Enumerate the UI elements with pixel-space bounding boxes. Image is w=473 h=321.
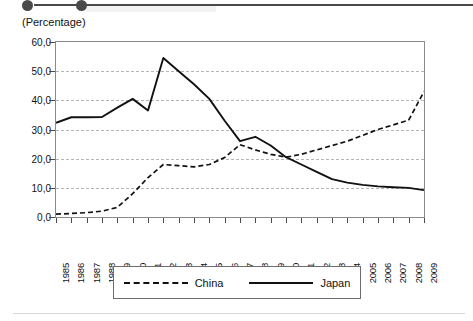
x-tick-18 — [332, 218, 333, 223]
x-tick-1 — [71, 218, 72, 223]
x-tick-21 — [378, 218, 379, 223]
x-tick-10 — [209, 218, 210, 223]
bullet-dot-1-icon — [22, 0, 33, 11]
legend-item-japan: Japan — [249, 277, 350, 289]
x-tick-20 — [363, 218, 364, 223]
x-tick-23 — [409, 218, 410, 223]
x-tick-14 — [271, 218, 272, 223]
top-decoration-bar — [0, 0, 473, 14]
x-tick-22 — [393, 218, 394, 223]
legend-swatch-solid-icon — [249, 282, 313, 284]
x-tick-7 — [163, 218, 164, 223]
y-axis-unit-label: (Percentage) — [22, 16, 86, 28]
series-line-japan — [56, 58, 424, 190]
x-axis-ticks — [55, 218, 425, 223]
plot-area — [55, 41, 425, 218]
x-tick-8 — [179, 218, 180, 223]
x-tick-label-2008: 2008 — [413, 263, 424, 283]
x-axis-tick-labels: 1985198619871988198919901991199219931994… — [55, 225, 425, 265]
x-tick-label-2005: 2005 — [367, 263, 378, 283]
x-tick-3 — [102, 218, 103, 223]
top-rule — [34, 4, 473, 6]
series-lines — [56, 42, 424, 217]
legend-swatch-dashed-icon — [124, 282, 188, 284]
legend-row: China Japan — [114, 267, 360, 298]
line-chart: (Percentage) 0,010,020,030,040,050,060,0… — [0, 14, 473, 306]
series-line-china — [56, 92, 424, 215]
y-axis-tick-labels: 0,010,020,030,040,050,060,0 — [0, 41, 51, 218]
x-tick-label-1987: 1987 — [91, 263, 102, 283]
chart-legend: China Japan — [113, 266, 361, 299]
x-tick-24 — [424, 218, 425, 223]
x-tick-label-2006: 2006 — [382, 263, 393, 283]
top-ghost-text — [86, 6, 216, 12]
x-tick-17 — [317, 218, 318, 223]
x-tick-9 — [194, 218, 195, 223]
x-tick-15 — [286, 218, 287, 223]
x-tick-2 — [87, 218, 88, 223]
x-tick-11 — [225, 218, 226, 223]
x-tick-16 — [301, 218, 302, 223]
footer-hairline — [13, 313, 465, 314]
bullet-dot-2-icon — [76, 0, 87, 11]
legend-label-japan: Japan — [320, 277, 350, 289]
x-tick-label-2007: 2007 — [397, 263, 408, 283]
x-tick-label-1986: 1986 — [75, 263, 86, 283]
x-tick-12 — [240, 218, 241, 223]
x-tick-label-1985: 1985 — [60, 263, 71, 283]
x-tick-4 — [117, 218, 118, 223]
x-tick-0 — [56, 218, 57, 223]
x-tick-6 — [148, 218, 149, 223]
legend-item-china: China — [124, 277, 224, 289]
x-tick-5 — [133, 218, 134, 223]
x-tick-19 — [347, 218, 348, 223]
x-tick-13 — [255, 218, 256, 223]
x-tick-label-2009: 2009 — [428, 263, 439, 283]
legend-label-china: China — [195, 277, 224, 289]
